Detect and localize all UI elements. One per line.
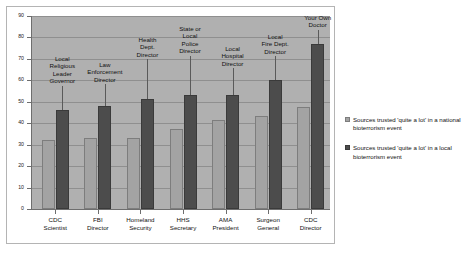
x-tick-label-line: CDC bbox=[281, 216, 341, 224]
callout-leader-line bbox=[233, 68, 234, 95]
gridline bbox=[32, 123, 330, 124]
gridline bbox=[32, 16, 330, 17]
bar bbox=[127, 138, 140, 209]
bar-callout-line: Local bbox=[165, 32, 215, 39]
x-tick-label-line: Director bbox=[281, 224, 341, 232]
x-tick-label: CDCDirector bbox=[281, 216, 341, 233]
x-tick-mark bbox=[311, 210, 312, 214]
y-tick-label: 30 bbox=[2, 142, 24, 147]
x-tick-mark bbox=[226, 210, 227, 214]
x-tick-mark bbox=[183, 210, 184, 214]
x-tick-mark bbox=[268, 210, 269, 214]
bar bbox=[255, 116, 268, 209]
bar bbox=[226, 95, 239, 209]
bar bbox=[56, 110, 69, 209]
bar-callout-line: Director bbox=[250, 48, 300, 55]
x-tick-mark bbox=[55, 210, 56, 214]
callout-leader-line bbox=[190, 56, 191, 96]
y-tick-label: 90 bbox=[2, 13, 24, 18]
callout-leader-line bbox=[105, 84, 106, 106]
bar-callout-line: State or bbox=[165, 25, 215, 32]
x-tick-mark bbox=[98, 210, 99, 214]
callout-leader-line bbox=[275, 56, 276, 80]
bar bbox=[170, 129, 183, 209]
y-tick-label: 20 bbox=[2, 163, 24, 168]
gridline bbox=[32, 102, 330, 103]
legend-entry: Sources trusted 'quite a lot' in a local… bbox=[345, 144, 463, 160]
bar-callout-label: LawEnforcementDirector bbox=[80, 61, 130, 83]
bar bbox=[42, 140, 55, 209]
y-tick-label: 80 bbox=[2, 34, 24, 39]
legend-swatch-icon bbox=[345, 145, 350, 150]
bar-callout-line: Director bbox=[80, 76, 130, 83]
bar bbox=[98, 106, 111, 209]
bar bbox=[297, 107, 310, 209]
x-tick-mark bbox=[140, 210, 141, 214]
bar bbox=[184, 95, 197, 209]
callout-leader-line bbox=[147, 59, 148, 98]
bar bbox=[311, 44, 324, 209]
callout-leader-line bbox=[318, 30, 319, 44]
y-tick-label: 0 bbox=[2, 206, 24, 211]
bar-callout-line: Director bbox=[208, 60, 258, 67]
y-tick-label: 60 bbox=[2, 77, 24, 82]
legend-entry: Sources trusted 'quite a lot' in a natio… bbox=[345, 116, 463, 132]
bar-callout-line: Doctor bbox=[293, 21, 343, 28]
bar-callout-label: LocalFire Dept.Director bbox=[250, 33, 300, 55]
bar bbox=[212, 120, 225, 209]
bar bbox=[269, 80, 282, 209]
legend-swatch-icon bbox=[345, 117, 350, 122]
y-tick-label: 70 bbox=[2, 56, 24, 61]
x-axis-line bbox=[31, 209, 330, 210]
bar-callout-line: Local bbox=[250, 33, 300, 40]
y-tick-label: 40 bbox=[2, 120, 24, 125]
bar-callout-line: Law bbox=[80, 61, 130, 68]
bar bbox=[141, 99, 154, 209]
legend-label: Sources trusted 'quite a lot' in a local… bbox=[353, 144, 463, 160]
chart-legend: Sources trusted 'quite a lot' in a natio… bbox=[345, 116, 463, 173]
bar-chart: 0102030405060708090 CDCScientistFBIDirec… bbox=[0, 0, 468, 253]
bar bbox=[84, 138, 97, 209]
y-tick-label: 10 bbox=[2, 185, 24, 190]
bar-callout-line: Your Own bbox=[293, 14, 343, 21]
bar-callout-line: Fire Dept. bbox=[250, 40, 300, 47]
callout-leader-line bbox=[62, 86, 63, 111]
legend-label: Sources trusted 'quite a lot' in a natio… bbox=[353, 116, 463, 132]
bar-callout-label: Your OwnDoctor bbox=[293, 14, 343, 29]
bar-callout-line: Enforcement bbox=[80, 68, 130, 75]
y-tick-label: 50 bbox=[2, 99, 24, 104]
